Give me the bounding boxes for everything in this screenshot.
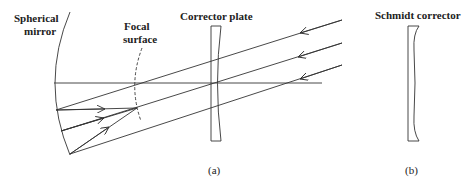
spherical-mirror-arc — [55, 12, 70, 155]
panel-b-label: (b) — [405, 164, 418, 177]
corrector-plate-label: Corrector plate — [180, 10, 253, 22]
incoming-ray-1 — [56, 20, 342, 110]
focal-surface-label-line1: Focal — [124, 20, 150, 32]
ray-2-arrow-icon — [298, 43, 342, 57]
schmidt-corrector-label: Schmidt corrector — [375, 9, 461, 21]
schmidt-telescope-diagram: Spherical mirror Focal surface Corrector… — [0, 0, 467, 185]
ray-3-arrow-icon — [300, 65, 342, 79]
focal-surface-label-line2: surface — [123, 33, 157, 45]
ray-1-arrow-icon — [300, 20, 342, 33]
reflected-ray-2-arrow-icon — [61, 118, 104, 131]
schmidt-corrector-b — [408, 26, 419, 141]
reflected-ray-3-arrow-icon — [70, 127, 109, 154]
spherical-mirror-label-line1: Spherical — [14, 12, 59, 24]
spherical-mirror-label-line2: mirror — [24, 25, 56, 37]
panel-a-label: (a) — [208, 164, 221, 177]
reflected-ray-1-arrow-icon — [56, 109, 105, 110]
